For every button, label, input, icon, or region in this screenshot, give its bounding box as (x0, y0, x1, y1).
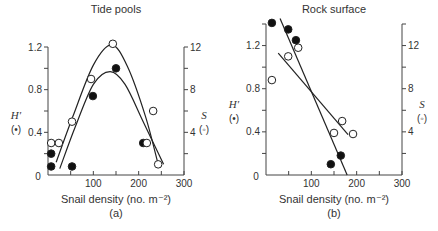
x-tick-label: 200 (130, 178, 147, 189)
s-data-point (154, 161, 162, 169)
h-data-point (112, 65, 120, 73)
y-left-tick-label: 0.4 (28, 127, 42, 138)
chart-title: Tide pools (91, 3, 142, 15)
h-data-point (68, 163, 76, 171)
h-fit-line (280, 19, 347, 175)
s-data-point (268, 76, 276, 84)
y-right-tick-label: 8 (190, 84, 196, 95)
h-data-point (327, 160, 335, 168)
s-data-point (149, 107, 157, 115)
y-left-marker-label: (•) (229, 113, 239, 124)
x-axis-label: Snail density (no. m⁻²) (61, 193, 171, 205)
y-left-tick-label: 0.8 (28, 84, 42, 95)
panel-label: (a) (109, 207, 122, 219)
h-data-point (89, 92, 97, 100)
h-data-point (284, 26, 292, 34)
h-data-point (292, 36, 300, 44)
y-right-label: S (419, 98, 425, 110)
s-data-point (338, 117, 346, 125)
s-fit-line (278, 53, 348, 134)
y-right-tick-label: 4 (408, 126, 414, 137)
origin-label: 0 (35, 171, 41, 182)
s-data-point (284, 53, 292, 61)
s-data-point (47, 139, 55, 147)
x-tick-label: 100 (85, 178, 102, 189)
x-tick-label: 300 (176, 178, 193, 189)
x-tick-label: 100 (303, 178, 320, 189)
h-data-point (47, 150, 55, 158)
y-right-label: S (201, 109, 207, 121)
s-data-point (87, 75, 95, 83)
y-left-tick-label: 0.4 (246, 126, 260, 137)
figure: Tide pools10020030000.40.81.24812H′(•)S(… (0, 0, 438, 231)
y-right-marker-label: (◦) (417, 113, 427, 124)
y-left-tick-label: 0.8 (246, 83, 260, 94)
y-right-tick-label: 8 (408, 83, 414, 94)
y-left-tick-label: 1.2 (246, 40, 260, 51)
s-data-point (109, 40, 117, 48)
x-tick-label: 300 (394, 178, 411, 189)
panel-label: (b) (327, 207, 340, 219)
y-left-label: H′ (10, 109, 22, 121)
origin-label: 0 (253, 171, 259, 182)
s-data-point (68, 118, 76, 126)
y-left-marker-label: (•) (11, 124, 21, 135)
y-left-tick-label: 1.2 (28, 42, 42, 53)
h-data-point (268, 19, 276, 27)
chart-title: Rock surface (302, 3, 366, 15)
s-data-point (55, 139, 63, 147)
h-data-point (337, 152, 345, 160)
h-data-point (47, 163, 55, 171)
y-right-tick-label: 12 (190, 42, 202, 53)
x-tick-label: 200 (348, 178, 365, 189)
y-right-tick-label: 4 (190, 127, 196, 138)
s-data-point (349, 130, 357, 138)
y-right-marker-label: (◦) (199, 124, 209, 135)
s-data-point (330, 129, 338, 137)
s-data-point (143, 139, 151, 147)
y-right-tick-label: 12 (408, 40, 420, 51)
y-left-label: H′ (228, 98, 240, 110)
s-data-point (294, 44, 302, 52)
x-axis-label: Snail density (no. m⁻²) (279, 193, 389, 205)
